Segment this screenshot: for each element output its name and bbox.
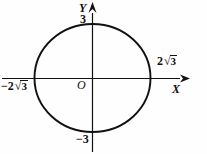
x-left-radicand: 3 <box>20 80 28 92</box>
x-intercept-left-label: −2√3 <box>1 80 28 92</box>
figure-canvas <box>0 0 207 154</box>
x-left-coefficient: −2 <box>1 79 14 93</box>
x-right-radicand: 3 <box>170 55 178 67</box>
y-tick-label-3: 3 <box>80 13 86 25</box>
sqrt-group-left: √3 <box>14 80 28 92</box>
x-intercept-right-label: 2√3 <box>157 55 177 67</box>
x-axis-arrow-icon <box>180 75 190 83</box>
x-axis-label: X <box>172 83 180 95</box>
origin-label: O <box>77 79 86 91</box>
y-axis-arrow-icon <box>89 2 97 13</box>
y-tick-label-neg3: −3 <box>76 133 89 145</box>
ellipse-figure: Y 3 X 2√3 −2√3 O −3 <box>0 0 207 154</box>
sqrt-group-right: √3 <box>163 55 177 67</box>
